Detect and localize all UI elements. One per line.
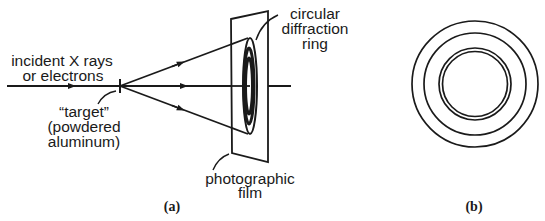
ring-b-outer [412,21,538,147]
upper-ray-arrow-icon [172,63,181,67]
film-leader-line [213,154,229,170]
ring-label-line3: ring [302,35,328,52]
panel-b [412,21,538,147]
panel-b-caption: (b) [465,199,482,215]
upper-diffracted-ray [120,38,248,86]
target-label-line3: aluminum) [48,133,120,150]
panel-a-caption: (a) [164,199,181,215]
diffraction-diagram: incident X rays or electrons “target” (p… [0,0,545,221]
ring-b-third [439,48,511,120]
ring-b-inner [443,52,508,117]
lower-ray-arrow-icon [172,106,181,110]
lower-diffracted-ray [120,86,248,134]
incident-label-line2: or electrons [23,67,104,84]
film-label-line2: film [238,184,262,201]
